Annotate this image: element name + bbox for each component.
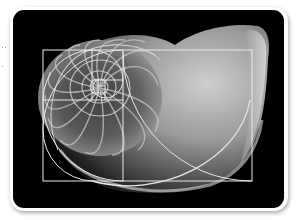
nautilus-illustration [13,10,284,208]
edge-dots [2,33,10,36]
nautilus-photo [13,10,284,208]
